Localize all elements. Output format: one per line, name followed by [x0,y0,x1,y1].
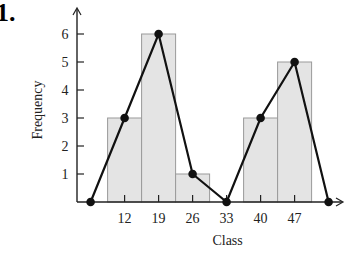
bar-12 [108,118,142,202]
y-tick-label-1: 1 [62,167,69,182]
polygon-point-19 [154,30,163,39]
polygon-point-26 [188,170,197,179]
polygon-point-5 [86,198,95,207]
x-axis-title: Class [212,233,242,248]
y-tick-label-6: 6 [62,27,69,42]
y-tick-label-2: 2 [62,139,69,154]
polygon-point-54 [324,198,333,207]
polygon-point-47 [290,58,299,67]
polygon-point-33 [222,198,231,207]
x-tick-label-19: 19 [152,211,166,226]
bars-group [108,34,312,202]
bar-19 [142,34,176,202]
polygon-point-12 [120,114,129,123]
x-tick-label-40: 40 [254,211,268,226]
bar-40 [244,118,278,202]
x-tick-label-26: 26 [186,211,200,226]
y-tick-label-4: 4 [62,83,69,98]
x-tick-label-47: 47 [288,211,302,226]
y-axis-title: Frequency [30,80,45,139]
y-tick-label-5: 5 [62,55,69,70]
x-tick-label-12: 12 [118,211,132,226]
y-tick-label-3: 3 [62,111,69,126]
histogram-chart: 123456121926334047 Class Frequency [0,0,345,253]
x-tick-label-33: 33 [220,211,234,226]
polygon-point-40 [256,114,265,123]
